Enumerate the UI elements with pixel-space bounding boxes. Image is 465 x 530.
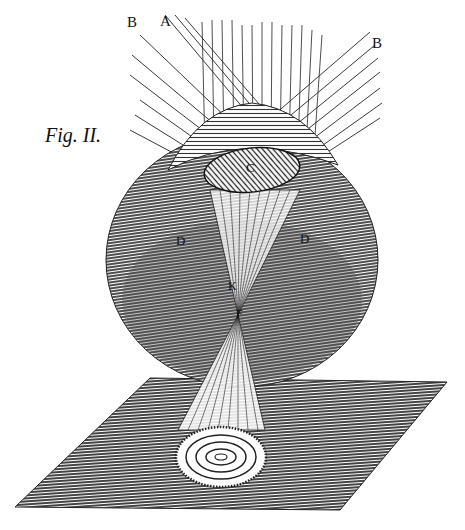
label-A: A bbox=[160, 13, 171, 29]
label-B-right: B bbox=[372, 35, 382, 51]
focused-image-rings bbox=[176, 427, 266, 487]
label-C: C bbox=[246, 160, 255, 175]
label-F: F bbox=[236, 307, 243, 321]
label-D-right: D bbox=[300, 231, 309, 246]
figure-caption: Fig. II. bbox=[44, 124, 101, 147]
label-D-left: D bbox=[176, 233, 185, 248]
label-K: K bbox=[228, 279, 237, 293]
label-B-left: B bbox=[127, 14, 137, 30]
engraving: A B B C D D K F Fig. II. bbox=[0, 0, 465, 530]
